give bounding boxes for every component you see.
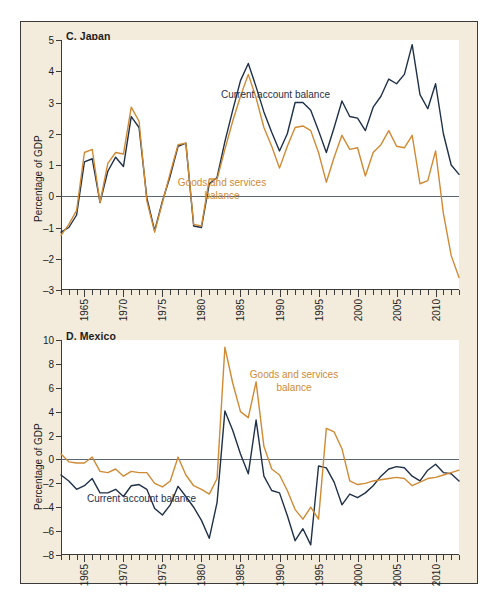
x-tick-label: 1990	[274, 299, 285, 321]
x-tick-mark-minor	[92, 290, 93, 295]
y-tick-label: –8	[43, 550, 54, 561]
annotation-goods-services-japan-line2: balance	[157, 189, 287, 202]
x-tick-label: 1965	[79, 564, 90, 586]
x-tick-label: 2000	[352, 564, 363, 586]
x-tick-label: 1990	[274, 564, 285, 586]
x-tick-mark-minor	[459, 290, 460, 295]
x-tick-mark-minor	[350, 555, 351, 560]
x-tick-mark-minor	[272, 555, 273, 560]
x-tick-mark-minor	[178, 555, 179, 560]
x-tick-mark-major	[162, 555, 163, 562]
x-tick-label: 1980	[196, 564, 207, 586]
x-tick-mark-minor	[365, 555, 366, 560]
x-tick-mark-minor	[459, 555, 460, 560]
x-tick-mark-minor	[420, 555, 421, 560]
y-tick-label: 4	[48, 406, 54, 417]
x-tick-mark-minor	[69, 290, 70, 295]
panel-mexico: D. Mexico Percentage of GDP –8–6–4–20246…	[21, 324, 477, 583]
x-tick-mark-minor	[334, 555, 335, 560]
x-tick-mark-minor	[412, 290, 413, 295]
x-tick-mark-minor	[178, 290, 179, 295]
x-tick-mark-major	[240, 555, 241, 562]
x-tick-mark-minor	[186, 290, 187, 295]
x-tick-mark-minor	[295, 290, 296, 295]
y-tick-label: –2	[43, 478, 54, 489]
x-tick-mark-minor	[139, 555, 140, 560]
x-tick-mark-major	[280, 555, 281, 562]
x-tick-mark-major	[201, 555, 202, 562]
x-tick-label: 1995	[313, 299, 324, 321]
y-tick-label: 6	[48, 382, 54, 393]
x-tick-mark-minor	[100, 290, 101, 295]
x-tick-mark-minor	[186, 555, 187, 560]
x-tick-mark-minor	[443, 290, 444, 295]
x-tick-label: 2000	[352, 299, 363, 321]
x-tick-mark-minor	[256, 555, 257, 560]
y-tick-label: 3	[48, 97, 54, 108]
x-tick-mark-minor	[147, 290, 148, 295]
x-tick-mark-minor	[295, 555, 296, 560]
y-tick-label: –3	[43, 285, 54, 296]
x-tick-mark-minor	[381, 290, 382, 295]
plot-area-japan: –3–2–1012345 Current account balance Goo…	[61, 40, 459, 290]
x-tick-label: 1975	[157, 564, 168, 586]
x-tick-mark-minor	[326, 290, 327, 295]
x-tick-mark-minor	[303, 555, 304, 560]
x-tick-mark-minor	[194, 290, 195, 295]
x-tick-mark-minor	[256, 290, 257, 295]
x-tick-mark-major	[319, 555, 320, 562]
y-tick-label: –2	[43, 253, 54, 264]
annotation-goods-services-japan: Goods and services balance	[157, 176, 287, 202]
series-line-current-account-balance	[61, 45, 459, 233]
x-tick-mark-minor	[451, 290, 452, 295]
x-tick-mark-minor	[233, 555, 234, 560]
y-axis-label-mexico: Percentage of GDP	[33, 423, 44, 510]
x-tick-mark-minor	[365, 290, 366, 295]
x-tick-label: 2010	[430, 564, 441, 586]
x-tick-label: 1980	[196, 299, 207, 321]
x-tick-label: 1995	[313, 564, 324, 586]
x-tick-label: 1985	[235, 564, 246, 586]
y-tick-label: 1	[48, 160, 54, 171]
y-tick-label: 5	[48, 35, 54, 46]
x-tick-mark-minor	[428, 290, 429, 295]
y-tick-label: –1	[43, 222, 54, 233]
x-tick-label: 1975	[157, 299, 168, 321]
x-tick-mark-minor	[217, 555, 218, 560]
x-tick-mark-major	[162, 290, 163, 297]
x-tick-mark-minor	[342, 290, 343, 295]
x-tick-mark-minor	[334, 290, 335, 295]
x-tick-mark-minor	[209, 290, 210, 295]
y-tick-label: 2	[48, 430, 54, 441]
x-tick-mark-major	[240, 290, 241, 297]
x-tick-label: 1970	[118, 564, 129, 586]
x-tick-mark-major	[436, 290, 437, 297]
x-tick-mark-minor	[61, 290, 62, 295]
x-tick-mark-minor	[170, 290, 171, 295]
x-tick-mark-minor	[225, 555, 226, 560]
x-tick-mark-minor	[248, 290, 249, 295]
x-tick-label: 1985	[235, 299, 246, 321]
x-tick-mark-minor	[443, 555, 444, 560]
x-tick-mark-minor	[155, 290, 156, 295]
x-tick-mark-minor	[342, 555, 343, 560]
x-tick-mark-minor	[287, 290, 288, 295]
y-tick-label: 0	[48, 454, 54, 465]
x-tick-mark-minor	[155, 555, 156, 560]
figure-frame: C. Japan Percentage of GDP –3–2–1012345 …	[20, 21, 478, 584]
x-tick-mark-minor	[404, 555, 405, 560]
series-layer-japan	[61, 40, 459, 290]
x-tick-mark-major	[84, 555, 85, 562]
plot-area-mexico: –8–6–4–20246810 Goods and services balan…	[61, 340, 459, 555]
x-tick-mark-minor	[326, 555, 327, 560]
y-tick-label: 8	[48, 358, 54, 369]
x-tick-mark-minor	[311, 290, 312, 295]
x-tick-mark-minor	[77, 555, 78, 560]
x-tick-mark-minor	[373, 555, 374, 560]
x-tick-mark-minor	[209, 555, 210, 560]
annotation-goods-services-mexico-line1: Goods and services	[229, 368, 359, 381]
x-tick-mark-major	[123, 555, 124, 562]
x-tick-mark-minor	[131, 290, 132, 295]
x-tick-mark-minor	[116, 290, 117, 295]
x-tick-mark-minor	[287, 555, 288, 560]
